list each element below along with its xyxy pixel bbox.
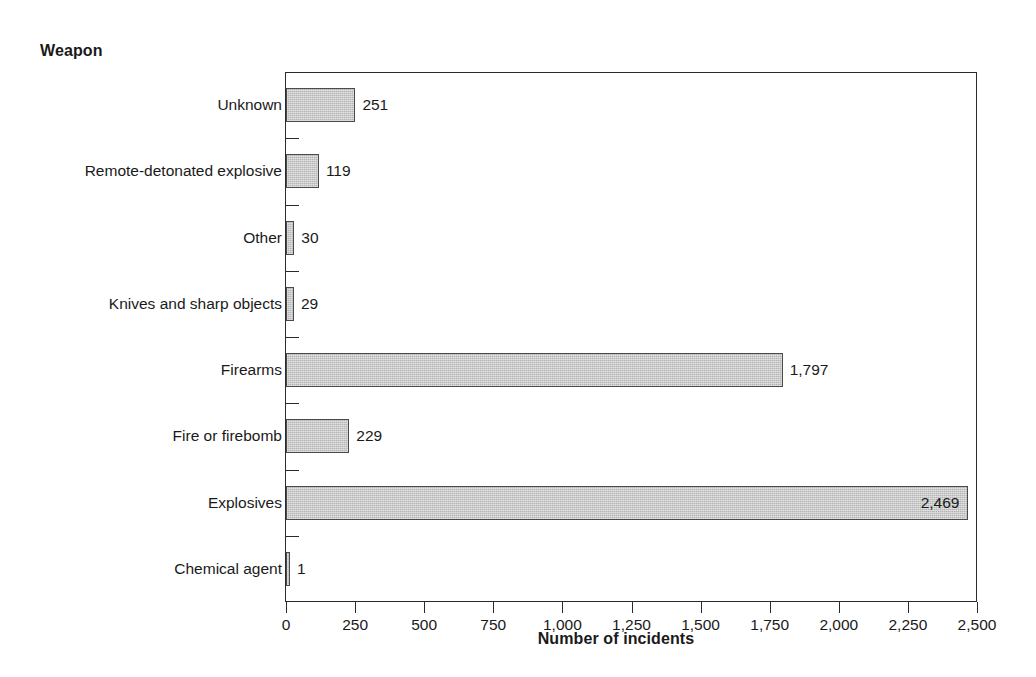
y-axis-tick (286, 403, 299, 404)
y-axis-tick (286, 470, 299, 471)
y-axis-tick (286, 138, 299, 139)
bar-container: 229 (286, 419, 382, 453)
category-label: Knives and sharp objects (109, 295, 282, 313)
bar (286, 154, 319, 188)
category-label: Chemical agent (174, 560, 282, 578)
y-axis-title: Weapon (40, 42, 103, 60)
x-axis-tick (770, 602, 771, 613)
bar-row: Fire or firebomb229 (0, 403, 1036, 469)
bar-value-label: 119 (326, 162, 351, 180)
bar-row: Unknown251 (0, 72, 1036, 138)
bar-container: 30 (286, 221, 319, 255)
category-label: Remote-detonated explosive (85, 162, 282, 180)
x-axis-tick (977, 602, 978, 613)
bar-container: 251 (286, 88, 388, 122)
bar-container: 1,797 (286, 353, 828, 387)
bar-row: Explosives2,469 (0, 470, 1036, 536)
bar (286, 353, 783, 387)
bar-value-label: 1 (297, 560, 306, 578)
bar-chart: Weapon Unknown251Remote-detonated explos… (0, 0, 1036, 677)
bar (286, 287, 294, 321)
bar-value-label: 251 (362, 96, 388, 114)
bar-row: Remote-detonated explosive119 (0, 138, 1036, 204)
bar-value-label: 30 (301, 229, 318, 247)
y-axis-tick (286, 205, 299, 206)
y-axis-tick (286, 271, 299, 272)
category-label: Firearms (221, 361, 282, 379)
bar (286, 88, 355, 122)
y-axis-tick (286, 337, 299, 338)
x-axis-tick (701, 602, 702, 613)
bar-value-label: 229 (356, 427, 382, 445)
category-label: Fire or firebomb (173, 427, 282, 445)
x-axis-tick (632, 602, 633, 613)
bar-row: Firearms1,797 (0, 337, 1036, 403)
category-label: Unknown (217, 96, 282, 114)
x-axis-tick (355, 602, 356, 613)
x-axis-tick (493, 602, 494, 613)
bar (286, 552, 290, 586)
category-label: Other (243, 229, 282, 247)
bar-container: 119 (286, 154, 351, 188)
x-axis-title-text: Number of incidents (538, 630, 695, 647)
bar (286, 221, 294, 255)
x-axis-tick (908, 602, 909, 613)
bar-row: Knives and sharp objects29 (0, 271, 1036, 337)
x-axis-tick (562, 602, 563, 613)
bar-container: 2,469 (286, 486, 968, 520)
y-axis-tick (286, 536, 299, 537)
category-label: Explosives (208, 494, 282, 512)
x-axis-tick (286, 602, 287, 613)
bar-row: Chemical agent1 (0, 536, 1036, 602)
bar-row: Other30 (0, 205, 1036, 271)
bar-value-label: 2,469 (921, 494, 960, 512)
x-axis-tick (424, 602, 425, 613)
bar-container: 29 (286, 287, 318, 321)
bar: 2,469 (286, 486, 968, 520)
bar-value-label: 1,797 (790, 361, 829, 379)
bar-container: 1 (286, 552, 306, 586)
bar (286, 419, 349, 453)
bar-value-label: 29 (301, 295, 318, 313)
x-axis-tick (839, 602, 840, 613)
x-axis-title: Number of incidents (0, 630, 1036, 648)
